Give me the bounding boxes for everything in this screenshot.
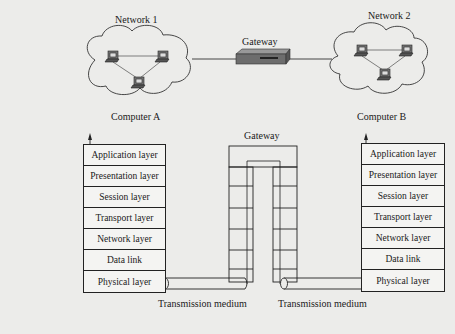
computer-b-label: Computer B: [357, 111, 406, 122]
gateway-mid-label: Gateway: [244, 130, 280, 141]
medium-left-label: Transmission medium: [158, 298, 247, 309]
layer-network: Network layer: [84, 229, 165, 250]
layer-transport: Transport layer: [84, 208, 165, 229]
medium-right-label: Transmission medium: [278, 298, 367, 309]
layer-data-link: Data link: [84, 250, 165, 271]
network-2-computers-icon: [354, 45, 413, 80]
gateway-top-label: Gateway: [242, 36, 278, 47]
transmission-medium-right-icon: [281, 278, 365, 289]
gateway-relay-diagram: [229, 146, 297, 284]
layer-data-link: Data link: [362, 249, 444, 270]
layer-presentation: Presentation layer: [362, 165, 444, 186]
layer-application: Application layer: [362, 144, 444, 165]
layer-presentation: Presentation layer: [84, 166, 165, 187]
network-1-label: Network 1: [115, 14, 158, 25]
network-1-computers-icon: [105, 51, 169, 88]
network-2-label: Network 2: [368, 10, 411, 21]
layer-physical: Physical layer: [84, 271, 165, 292]
gateway-device-icon: [236, 49, 290, 64]
layer-physical: Physical layer: [362, 270, 444, 291]
computer-a-label: Computer A: [111, 111, 160, 122]
computer-b-osi-stack: Application layer Presentation layer Ses…: [361, 143, 445, 292]
layer-session: Session layer: [84, 187, 165, 208]
layer-transport: Transport layer: [362, 207, 444, 228]
layer-session: Session layer: [362, 186, 444, 207]
layer-network: Network layer: [362, 228, 444, 249]
network-2-cloud-icon: [330, 23, 428, 94]
computer-a-osi-stack: Application layer Presentation layer Ses…: [83, 144, 166, 293]
layer-application: Application layer: [84, 145, 165, 166]
